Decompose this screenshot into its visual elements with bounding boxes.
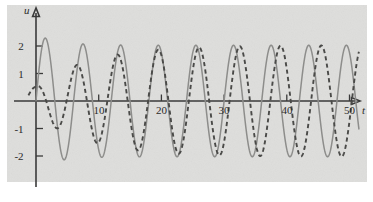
solid-oscillation-curve xyxy=(36,38,359,160)
figure-container: u t 2 1 -1 -2 10 20 30 40 50 xyxy=(0,0,373,202)
y-axis-label: u xyxy=(24,4,30,16)
y-axis-group xyxy=(33,8,43,187)
x-tick-label-20: 20 xyxy=(156,104,168,116)
x-tick-label-10: 10 xyxy=(94,104,106,116)
x-tick-label-50: 50 xyxy=(344,104,356,116)
x-axis-label: t xyxy=(362,104,366,116)
y-tick-label-minus-1: -1 xyxy=(14,123,23,135)
x-tick-label-30: 30 xyxy=(219,104,231,116)
y-tick-label-1: 1 xyxy=(18,68,24,80)
y-tick-label-2: 2 xyxy=(18,40,24,52)
y-tick-label-minus-2: -2 xyxy=(14,150,23,162)
chart-plot: u t 2 1 -1 -2 10 20 30 40 50 xyxy=(0,0,373,202)
x-tick-label-40: 40 xyxy=(282,104,294,116)
